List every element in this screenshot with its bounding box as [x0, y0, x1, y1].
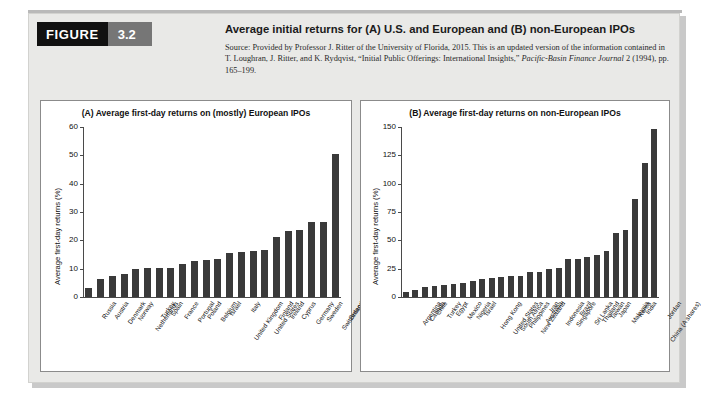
bar — [470, 281, 476, 297]
y-axis-tick — [398, 127, 402, 128]
bar — [537, 272, 543, 297]
bar — [518, 276, 524, 297]
bar — [594, 255, 600, 297]
figure-source: Source: Provided by Professor J. Ritter … — [225, 42, 669, 76]
bar — [565, 259, 571, 297]
y-axis-tick — [80, 212, 84, 213]
bar — [546, 269, 552, 297]
y-axis-tick — [398, 212, 402, 213]
y-axis-tick-label: 0 — [369, 292, 396, 301]
y-axis-tick — [398, 269, 402, 270]
x-axis-line — [401, 297, 659, 298]
y-axis-tick — [398, 297, 402, 298]
y-axis-tick — [80, 297, 84, 298]
y-axis-tick-label: 40 — [51, 179, 78, 188]
bar — [144, 268, 151, 297]
y-axis-tick-label: 25 — [369, 264, 396, 273]
chart-a-plot-area: Average first-day returns (%) 0102030405… — [41, 123, 351, 371]
y-axis-tick-label: 0 — [51, 292, 78, 301]
x-axis-tick-label: Jordan — [666, 300, 683, 320]
bar — [203, 260, 210, 297]
bar — [451, 284, 457, 297]
y-axis-tick-label: 30 — [51, 207, 78, 216]
y-axis-tick-label: 150 — [369, 122, 396, 131]
bar — [479, 279, 485, 297]
figure-title: Average initial returns for (A) U.S. and… — [225, 22, 669, 37]
y-axis-tick — [398, 240, 402, 241]
chart-panel-b: (B) Average first-day returns on non-Eur… — [360, 100, 670, 372]
bar — [623, 230, 629, 297]
bar — [584, 257, 590, 297]
figure-badge-word: FIGURE — [37, 22, 108, 46]
bar — [97, 279, 104, 297]
bar — [422, 287, 428, 297]
bar — [460, 283, 466, 297]
y-axis-tick — [80, 155, 84, 156]
y-axis-tick-label: 100 — [369, 179, 396, 188]
figure-badge-number: 3.2 — [108, 22, 152, 46]
bar — [132, 269, 139, 297]
bar — [412, 290, 418, 297]
y-axis-tick-label: 125 — [369, 150, 396, 159]
bar — [632, 199, 638, 297]
bar — [109, 276, 116, 297]
bar — [432, 286, 438, 297]
figure-panel: FIGURE 3.2 Average initial returns for (… — [28, 13, 680, 383]
bar — [403, 292, 409, 297]
y-axis-tick — [398, 184, 402, 185]
chart-b-title: (B) Average first-day returns on non-Eur… — [361, 108, 669, 118]
x-axis-tick-label: Italy — [249, 300, 261, 314]
bar — [285, 231, 292, 297]
y-axis-tick — [80, 127, 84, 128]
bar — [214, 259, 221, 297]
y-axis-tick-label: 60 — [51, 122, 78, 131]
bar — [320, 222, 327, 297]
figure-header: Average initial returns for (A) U.S. and… — [225, 22, 669, 76]
source-journal-name: Pacific-Basin Finance — [522, 54, 596, 63]
y-axis-tick-label: 20 — [51, 235, 78, 244]
bar — [651, 129, 657, 297]
bar — [604, 251, 610, 297]
figure-badge: FIGURE 3.2 — [37, 22, 152, 46]
bar — [296, 230, 303, 297]
y-axis-tick-label: 50 — [51, 150, 78, 159]
chart-b-plot-area: Average first-day returns (%) 0255075100… — [361, 123, 669, 371]
bar — [489, 278, 495, 297]
bar — [441, 285, 447, 297]
bar — [508, 276, 514, 297]
bar — [332, 154, 339, 297]
y-axis-tick — [80, 184, 84, 185]
bar — [167, 268, 174, 297]
bar — [191, 261, 198, 297]
bar — [85, 288, 92, 297]
source-journal-word: Journal — [598, 54, 624, 63]
bar — [308, 222, 315, 297]
bar — [121, 274, 128, 297]
source-line-1: Source: Provided by Professor J. Ritter … — [225, 43, 622, 52]
bar — [527, 272, 533, 297]
bar — [238, 252, 245, 297]
bar — [613, 233, 619, 297]
y-axis-tick-label: 75 — [369, 207, 396, 216]
bar — [226, 253, 233, 297]
bar — [498, 277, 504, 297]
bar — [273, 237, 280, 297]
x-axis-line — [83, 297, 341, 298]
y-axis-tick-label: 10 — [51, 264, 78, 273]
bar — [261, 250, 268, 297]
y-axis-tick — [398, 155, 402, 156]
bar — [556, 268, 562, 297]
y-axis-tick — [80, 240, 84, 241]
bar — [250, 251, 257, 297]
chart-panel-a: (A) Average first-day returns on (mostly… — [40, 100, 352, 372]
bar — [156, 268, 163, 297]
bar — [179, 264, 186, 297]
y-axis-tick — [80, 269, 84, 270]
chart-a-title: (A) Average first-day returns on (mostly… — [41, 108, 351, 118]
bar — [642, 163, 648, 297]
y-axis-tick-label: 50 — [369, 235, 396, 244]
bar — [575, 259, 581, 297]
